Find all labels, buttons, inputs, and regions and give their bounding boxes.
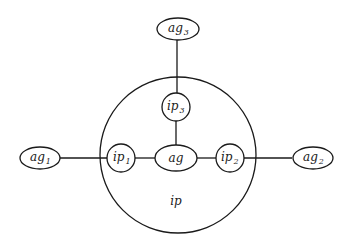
node-ag3: ag3 (157, 18, 199, 40)
diagram-canvas: ag3 ip3 ag1 ip1 ag ip2 ag2 (0, 0, 351, 244)
node-ag2: ag2 (293, 147, 333, 169)
node-ip2: ip2 (216, 144, 244, 172)
node-ag: ag (155, 145, 197, 171)
node-ag-label: ag (169, 151, 184, 165)
node-ag1: ag1 (20, 147, 60, 169)
container-ip-label: ip (170, 194, 182, 208)
node-ip3: ip3 (162, 93, 190, 121)
node-ip1: ip1 (107, 144, 135, 172)
